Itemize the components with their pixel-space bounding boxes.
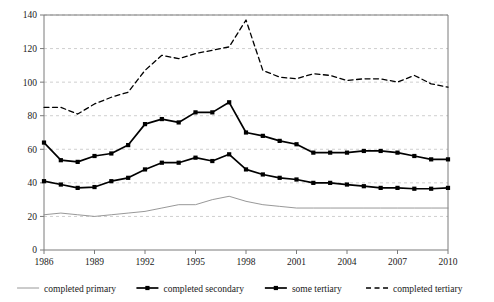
- y-tick-label-100: 100: [23, 78, 38, 88]
- legend-marker-1: [145, 286, 149, 290]
- series-marker-2-19: [362, 149, 366, 153]
- legend-label-3: completed tertiary: [393, 284, 463, 294]
- y-tick-label-60: 60: [28, 145, 38, 155]
- series-marker-1-5: [126, 176, 130, 180]
- series-marker-2-17: [328, 151, 332, 155]
- series-marker-1-10: [210, 159, 214, 163]
- series-marker-2-18: [345, 151, 349, 155]
- x-tick-label-2001: 2001: [287, 257, 306, 267]
- x-tick-label-1992: 1992: [136, 257, 155, 267]
- y-axis-ticks: 020406080100120140: [23, 10, 44, 255]
- legend-label-0: completed primary: [44, 284, 116, 294]
- series-marker-1-17: [328, 181, 332, 185]
- y-tick-label-40: 40: [28, 178, 38, 188]
- y-tick-label-20: 20: [28, 212, 38, 222]
- series-marker-2-14: [278, 139, 282, 143]
- series-marker-2-5: [126, 143, 130, 147]
- series-marker-1-22: [412, 187, 416, 191]
- chart-figure: 020406080100120140 198619891992199519982…: [0, 0, 494, 302]
- series-marker-2-10: [210, 110, 214, 114]
- x-tick-label-1998: 1998: [237, 257, 256, 267]
- series-marker-2-9: [193, 110, 197, 114]
- series-marker-1-20: [379, 186, 383, 190]
- series-marker-2-4: [109, 151, 113, 155]
- series-marker-1-19: [362, 184, 366, 188]
- series-marker-2-15: [294, 142, 298, 146]
- series-marker-1-3: [92, 185, 96, 189]
- series-marker-2-2: [76, 160, 80, 164]
- legend-label-1: completed secondary: [163, 284, 244, 294]
- y-tick-label-140: 140: [23, 10, 38, 20]
- chart-legend: completed primarycompleted secondarysome…: [17, 284, 463, 294]
- series-marker-2-8: [177, 120, 181, 124]
- line-chart: 020406080100120140 198619891992199519982…: [0, 0, 494, 302]
- series-marker-1-24: [446, 186, 450, 190]
- series-marker-1-4: [109, 179, 113, 183]
- x-tick-label-2004: 2004: [338, 257, 357, 267]
- y-tick-label-120: 120: [23, 44, 38, 54]
- x-tick-label-2010: 2010: [439, 257, 458, 267]
- series-marker-2-0: [42, 140, 46, 144]
- series-marker-1-23: [429, 187, 433, 191]
- series-marker-2-24: [446, 157, 450, 161]
- series-marker-2-21: [395, 151, 399, 155]
- series-marker-1-6: [143, 167, 147, 171]
- y-tick-label-0: 0: [32, 245, 37, 255]
- series-marker-1-0: [42, 179, 46, 183]
- series-marker-2-12: [244, 130, 248, 134]
- x-tick-label-1989: 1989: [85, 257, 104, 267]
- series-marker-2-16: [311, 151, 315, 155]
- series-marker-1-15: [294, 177, 298, 181]
- y-tick-label-80: 80: [28, 111, 38, 121]
- series-marker-1-12: [244, 167, 248, 171]
- series-marker-1-13: [261, 172, 265, 176]
- series-marker-1-2: [76, 186, 80, 190]
- x-tick-label-1986: 1986: [35, 257, 54, 267]
- series-marker-1-11: [227, 152, 231, 156]
- legend-marker-2: [274, 286, 278, 290]
- series-marker-2-23: [429, 157, 433, 161]
- legend-label-2: some tertiary: [292, 284, 342, 294]
- series-marker-1-18: [345, 182, 349, 186]
- x-tick-label-1995: 1995: [186, 257, 205, 267]
- series-marker-2-22: [412, 154, 416, 158]
- series-marker-1-14: [278, 176, 282, 180]
- series-marker-1-16: [311, 181, 315, 185]
- x-tick-label-2007: 2007: [388, 257, 407, 267]
- series-marker-1-9: [193, 156, 197, 160]
- series-marker-1-1: [59, 182, 63, 186]
- series-marker-2-11: [227, 100, 231, 104]
- series-marker-1-8: [177, 161, 181, 165]
- x-axis-ticks: 198619891992199519982001200420072010: [35, 250, 458, 267]
- series-marker-2-13: [261, 134, 265, 138]
- series-marker-2-1: [59, 158, 63, 162]
- series-marker-1-7: [160, 161, 164, 165]
- series-marker-2-7: [160, 117, 164, 121]
- series-marker-2-3: [92, 154, 96, 158]
- series-marker-2-6: [143, 122, 147, 126]
- series-marker-2-20: [379, 149, 383, 153]
- series-marker-1-21: [395, 186, 399, 190]
